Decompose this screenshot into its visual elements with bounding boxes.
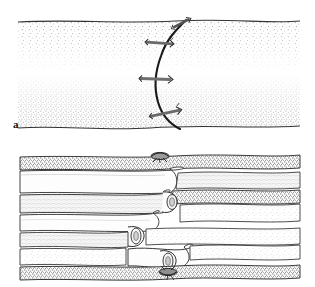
panel-b-drawing	[0, 145, 315, 287]
panel-a-drawing	[0, 0, 315, 145]
figure-container: a	[0, 0, 315, 287]
panel-a: a	[0, 0, 315, 145]
panel-b: b	[0, 145, 315, 287]
fibre-layer-6-right	[190, 245, 300, 260]
fibre-layer-2-right	[176, 172, 300, 189]
fibre-layer-3-right	[172, 190, 300, 204]
fibre-layer-4-right	[180, 204, 300, 222]
knot-top	[151, 152, 169, 163]
fibre-layer-5-left	[20, 232, 128, 248]
fibre-layer-5-right	[146, 228, 300, 245]
panel-a-label: a	[13, 118, 19, 130]
fibre-layer-2	[20, 167, 184, 194]
fibre-layer-6-left	[20, 248, 126, 266]
